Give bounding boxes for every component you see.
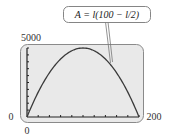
x-min-left-label: 0 xyxy=(9,111,14,122)
x-max-label: 200 xyxy=(147,111,162,122)
chart-figure: A = l(100 − l/2) 5000 0 0 200 xyxy=(0,0,177,139)
equation-label: A = l(100 − l/2) xyxy=(74,9,140,21)
chart-svg: A = l(100 − l/2) 5000 0 0 200 xyxy=(0,0,177,139)
x-min-below-label: 0 xyxy=(25,125,30,136)
plot-frame xyxy=(21,45,144,123)
y-max-label: 5000 xyxy=(21,32,41,43)
